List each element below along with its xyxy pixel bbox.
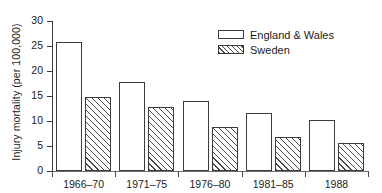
x-axis-label-1966–70: 1966–70 [52, 178, 115, 190]
injury-mortality-bar-chart: Injury mortality (per 100,000) 051015202… [0, 0, 382, 193]
y-tick-mark [48, 121, 53, 122]
legend-item-sweden: Sweden [218, 42, 334, 57]
y-tick-label-0: 0 [37, 164, 43, 176]
x-tick-boundary [52, 171, 53, 177]
y-tick-25: 25 [47, 46, 52, 47]
x-tick-boundary [368, 171, 369, 177]
x-tick-boundary [178, 171, 179, 177]
y-tick-label-5: 5 [37, 139, 43, 151]
y-tick-label-10: 10 [31, 114, 43, 126]
y-tick-mark [48, 46, 53, 47]
bar-england-wales-1976–80 [183, 101, 209, 171]
open-rectangle-swatch-icon [218, 30, 244, 39]
y-tick-mark [48, 96, 53, 97]
y-tick-mark [48, 21, 53, 22]
x-tick-boundary [242, 171, 243, 177]
x-axis-label-1976–80: 1976–80 [178, 178, 241, 190]
y-tick-label-15: 15 [31, 89, 43, 101]
y-tick-5: 5 [47, 146, 52, 147]
y-tick-20: 20 [47, 71, 52, 72]
x-tick-boundary [305, 171, 306, 177]
y-axis-title: Injury mortality (per 100,000) [10, 12, 22, 172]
bar-england-wales-1971–75 [119, 82, 145, 171]
legend-label-england-wales: England & Wales [250, 29, 334, 41]
y-tick-mark [48, 146, 53, 147]
y-tick-label-20: 20 [31, 64, 43, 76]
chart-legend: England & Wales Sweden [218, 27, 334, 57]
x-tick-boundary [115, 171, 116, 177]
bar-sweden-1988 [338, 143, 364, 172]
legend-label-sweden: Sweden [250, 44, 290, 56]
y-tick-30: 30 [47, 21, 52, 22]
y-tick-10: 10 [47, 121, 52, 122]
legend-item-england-wales: England & Wales [218, 27, 334, 42]
x-axis-label-1981–85: 1981–85 [242, 178, 305, 190]
y-tick-mark [48, 71, 53, 72]
y-tick-label-25: 25 [31, 39, 43, 51]
x-axis-line [52, 171, 368, 172]
bar-england-wales-1966–70 [56, 42, 82, 171]
y-tick-15: 15 [47, 96, 52, 97]
x-axis-label-1988: 1988 [305, 178, 368, 190]
bar-sweden-1981–85 [275, 137, 301, 171]
bar-england-wales-1988 [309, 120, 335, 171]
hatched-rectangle-swatch-icon [218, 45, 244, 54]
bar-england-wales-1981–85 [246, 113, 272, 171]
x-axis-label-1971–75: 1971–75 [115, 178, 178, 190]
y-tick-label-30: 30 [31, 14, 43, 26]
bar-sweden-1971–75 [148, 107, 174, 171]
bar-sweden-1966–70 [85, 97, 111, 172]
bar-sweden-1976–80 [212, 127, 238, 171]
